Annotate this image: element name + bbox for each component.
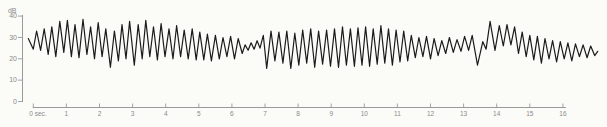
y-axis-unit-label: dB [8,7,17,14]
x-tick-label: 14 [493,110,501,117]
y-tick-label: 10 [9,76,17,83]
sound-level-chart: 010203040dB0 sec.12345678910111213141516 [0,0,607,127]
x-tick-label: 4 [164,110,168,117]
y-tick-label: 0 [13,98,17,105]
x-tick-label: 15 [526,110,534,117]
x-tick-label: 11 [394,110,401,117]
x-tick-label: 2 [98,110,102,117]
x-tick-label: 9 [329,110,333,117]
x-tick-label: 5 [197,110,201,117]
x-tick-label: 16 [559,110,567,117]
x-tick-label: 6 [230,110,234,117]
x-tick-label: 13 [460,110,468,117]
x-tick-label: 8 [296,110,300,117]
x-tick-label: 1 [65,110,69,117]
x-tick-label: 3 [131,110,135,117]
y-tick-label: 30 [9,34,17,41]
y-tick-label: 20 [9,55,17,62]
sound-level-figure: 010203040dB0 sec.12345678910111213141516 [0,0,607,127]
x-tick-label: 0 sec. [29,110,47,117]
x-tick-label: 7 [263,110,267,117]
x-tick-label: 10 [361,110,369,117]
x-tick-label: 12 [427,110,435,117]
